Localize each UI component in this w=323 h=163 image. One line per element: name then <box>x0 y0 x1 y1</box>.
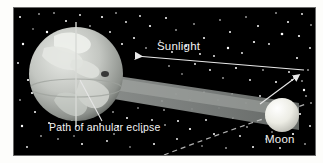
moon-label: Moon <box>265 133 295 145</box>
sunlight-label: Sunlight <box>157 40 201 52</box>
moon <box>265 98 299 132</box>
eclipse-diagram-figure: Sunlight Path of annular eclipse Moon <box>14 8 315 155</box>
path-of-annular-eclipse-label: Path of annular eclipse <box>49 121 160 133</box>
eclipse-spot <box>101 71 109 77</box>
diagram-canvas: Sunlight Path of annular eclipse Moon <box>14 8 315 155</box>
